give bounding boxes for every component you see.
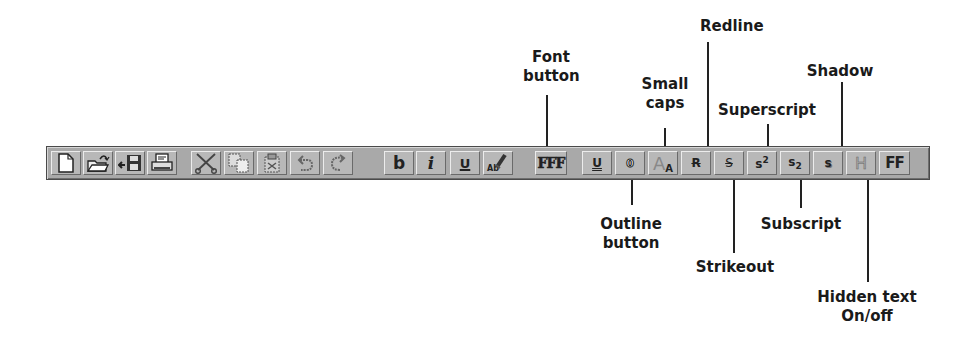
callout-line-hidden-text [867,180,869,282]
save-disk-icon [118,153,142,173]
double-underline-button[interactable]: U [582,151,612,175]
callout-shadow: Shadow [800,62,880,81]
callout-hidden-text: Hidden text On/off [812,288,922,326]
callout-small-caps: Small caps [637,75,693,113]
copy-button[interactable] [224,151,254,175]
strikeout-icon: S [725,156,733,170]
callout-small-caps-line1: Small [637,75,693,94]
callout-line-redline [707,42,709,146]
callout-subscript-text: Subscript [755,215,847,234]
callout-outline-button-line1: Outline [595,215,667,234]
callout-line-small-caps [664,128,666,146]
callout-small-caps-line2: caps [637,94,693,113]
shadow-button[interactable]: s [813,151,843,175]
scissors-icon [194,152,218,174]
open-folder-icon [86,153,110,173]
callout-line-superscript [767,124,769,146]
superscript-icon: s2 [755,155,768,171]
underline-button[interactable]: U [450,151,480,175]
small-caps-small-a: A [665,163,673,174]
new-document-icon [58,153,74,173]
open-button[interactable] [83,151,113,175]
subscript-icon: s2 [788,155,801,171]
copy-icon [228,153,250,173]
italic-button[interactable]: i [416,151,446,175]
hidden-text-button[interactable]: H [846,151,876,175]
callout-strikeout: Strikeout [690,258,780,277]
callout-line-font [546,95,548,146]
formatting-toolbar: b i U Ab FFF U 0 AA R S s2 s2 s [46,146,930,180]
callout-superscript: Superscript [712,101,822,120]
redo-icon [328,153,348,173]
small-caps-button[interactable]: AA [648,151,678,175]
callout-font-button-line2: button [523,67,579,86]
small-caps-icon: AA [653,153,673,174]
cut-button[interactable] [191,151,221,175]
callout-outline-button-line2: button [595,234,667,253]
outline-button[interactable]: 0 [615,151,645,175]
print-button[interactable] [147,151,177,175]
ff-button[interactable]: FF [879,151,910,175]
italic-icon: i [428,153,434,173]
ff-icon: FF [885,154,904,172]
callout-line-strikeout [733,180,735,253]
undo-icon [295,153,315,173]
strikeout-button[interactable]: S [714,151,744,175]
paste-button[interactable] [257,151,287,175]
callout-redline: Redline [700,17,764,36]
redo-button[interactable] [323,151,353,175]
callout-line-outline [631,180,633,205]
redline-icon: R [691,156,700,170]
printer-icon [151,153,173,173]
underline-icon: U [460,156,471,171]
callout-superscript-text: Superscript [712,101,822,120]
callout-font-button-line1: Font [523,48,579,67]
undo-button[interactable] [290,151,320,175]
outline-icon: 0 [626,157,634,170]
callout-outline-button: Outline button [595,215,667,253]
callout-font-button: Font button [523,48,579,86]
subscript-button[interactable]: s2 [780,151,810,175]
paste-icon [262,153,282,173]
bold-icon: b [393,153,405,173]
callout-strikeout-text: Strikeout [690,258,780,277]
hidden-text-icon: H [855,154,867,173]
callout-line-subscript [800,180,802,208]
callout-subscript: Subscript [755,215,847,234]
callout-line-shadow [841,82,843,146]
callout-hidden-text-line1: Hidden text [812,288,922,307]
callout-redline-text: Redline [700,17,764,36]
save-button[interactable] [115,151,145,175]
new-document-button[interactable] [51,151,81,175]
font-button[interactable]: FFF [535,151,567,175]
double-underline-icon: U [592,156,602,170]
format-painter-button[interactable]: Ab [483,151,513,175]
format-painter-icon: Ab [487,153,509,173]
shadow-icon: s [824,156,831,170]
callout-hidden-text-line2: On/off [812,307,922,326]
superscript-button[interactable]: s2 [747,151,777,175]
callout-shadow-text: Shadow [800,62,880,81]
font-icon: FFF [538,155,565,171]
redline-button[interactable]: R [681,151,711,175]
small-caps-large-a: A [653,153,665,174]
bold-button[interactable]: b [384,151,414,175]
